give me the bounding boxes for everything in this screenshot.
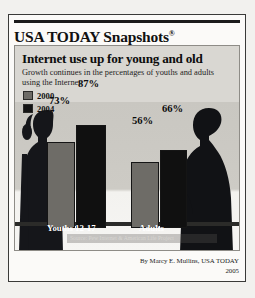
brand-name: USA TODAY Snapshots (14, 28, 169, 45)
value-adults-2004: 66% (162, 103, 183, 114)
registered-mark: ® (169, 29, 175, 38)
legend-swatch-2004 (23, 104, 33, 113)
category-label-youths: Youths 12-17 (47, 223, 96, 233)
bar-chart-area (15, 102, 240, 228)
snapshot-clipping: USA TODAY Snapshots® 73% 87% (0, 0, 255, 298)
brand-rule (14, 20, 240, 23)
chart-panel: 73% 87% 56% 66% Youths 12-17 Adults Sour… (14, 45, 240, 251)
byline: By Marcy E. Mullins, USA TODAY 2005 (89, 256, 239, 275)
legend-item-2000: 2000 (23, 90, 83, 101)
subheadline: Growth continues in the percentages of y… (22, 68, 228, 87)
headline: Internet use up for young and old (22, 51, 234, 66)
bar-youths-2004 (76, 125, 106, 228)
bar-youths-2000 (47, 142, 75, 228)
byline-year: 2005 (89, 266, 239, 275)
source-note: Source: Pew Internet & American Life Pro… (67, 234, 217, 243)
brand-title: USA TODAY Snapshots® (14, 24, 240, 43)
legend-label-2004: 2004 (37, 104, 54, 114)
bar-adults-2000 (131, 162, 159, 228)
legend-label-2000: 2000 (37, 91, 54, 101)
legend-swatch-2000 (23, 91, 33, 100)
value-adults-2000: 56% (132, 115, 153, 126)
legend-item-2004: 2004 (23, 103, 83, 114)
byline-credit: By Marcy E. Mullins, USA TODAY (140, 257, 239, 264)
bar-adults-2004 (160, 150, 187, 228)
category-label-adults: Adults (139, 223, 164, 233)
chart-legend: 2000 2004 (23, 90, 83, 116)
